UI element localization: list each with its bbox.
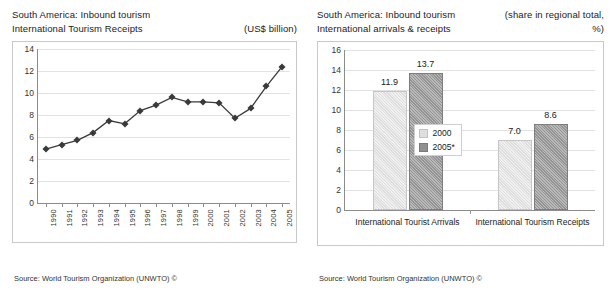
y-axis-tick-label: 6 [29, 132, 34, 142]
bar-chart-plot-area: 024681012141611.913.7International Touri… [344, 50, 595, 211]
x-axis-tick-label: 1993 [96, 209, 105, 227]
x-axis-tick-label: 1990 [49, 209, 58, 227]
bar-value-label: 8.6 [544, 110, 557, 120]
left-source-note: Source: World Tourism Organization (UNWT… [14, 274, 177, 283]
x-axis-tick [266, 203, 267, 207]
bar-chart-container: 024681012141611.913.7International Touri… [317, 41, 604, 246]
legend-swatch-icon [419, 129, 428, 138]
y-axis-tick-label: 6 [336, 145, 341, 155]
y-axis-tick-label: 14 [332, 65, 341, 75]
left-chart-panel: South America: Inbound tourism Internati… [0, 0, 307, 290]
y-axis-tick-label: 10 [332, 105, 341, 115]
x-axis-tick [125, 203, 126, 207]
y-axis-tick-label: 8 [29, 110, 34, 120]
right-title-line2: International arrivals & receipts [317, 22, 451, 36]
x-axis-tick [219, 203, 220, 207]
x-axis-tick [282, 203, 283, 207]
right-unit-note-line1: (share in regional total, [505, 8, 604, 22]
left-title-line1: South America: Inbound tourism [12, 8, 150, 22]
bar-value-label: 13.7 [417, 59, 435, 69]
x-axis-tick-label: 1994 [112, 209, 121, 227]
x-axis-tick [62, 203, 63, 207]
x-axis-tick [235, 203, 236, 207]
y-axis-tick-label: 10 [25, 88, 34, 98]
right-unit-note-line2: %) [592, 22, 604, 36]
bar-chart-legend: 20002005* [414, 124, 462, 156]
x-axis-tick [109, 203, 110, 207]
x-axis-tick [251, 203, 252, 207]
x-axis-tick-label: 2005 [285, 209, 294, 227]
x-axis-tick [156, 203, 157, 207]
legend-swatch-icon [419, 143, 428, 152]
bar-value-label: 11.9 [381, 77, 398, 87]
x-axis-tick-label: 1991 [65, 209, 74, 227]
tourism-receipts-line [38, 49, 290, 203]
legend-label: 2000 [433, 128, 452, 138]
right-chart-panel: South America: Inbound tourism (share in… [307, 0, 614, 290]
x-axis-tick-label: 1998 [175, 209, 184, 227]
x-axis-tick [140, 203, 141, 207]
bar-value-label: 7.0 [508, 126, 521, 136]
tourism-figure-page: South America: Inbound tourism Internati… [0, 0, 615, 290]
x-axis-tick-label: 2000 [206, 209, 215, 227]
x-axis-tick-label: 2004 [269, 209, 278, 227]
x-axis-tick [77, 203, 78, 207]
x-axis-tick-label: 2003 [254, 209, 263, 227]
legend-label: 2005* [433, 142, 455, 152]
legend-item[interactable]: 2005* [419, 142, 455, 152]
right-chart-header: South America: Inbound tourism (share in… [317, 8, 604, 36]
bar-2000 [373, 91, 407, 210]
y-axis-tick-label: 16 [332, 45, 341, 55]
left-unit-note: (US$ billion) [244, 22, 297, 36]
x-axis-tick-label: 1995 [128, 209, 137, 227]
gridline [345, 50, 595, 51]
bar-2005 [534, 124, 568, 210]
right-source-note: Source: World Tourism Organization (UNWT… [319, 274, 482, 283]
y-axis-tick-label: 14 [25, 44, 34, 54]
y-axis-tick-label: 2 [29, 176, 34, 186]
line-chart-container: 0246810121419901991199219931994199519961… [12, 41, 297, 243]
gridline [345, 70, 595, 71]
category-divider-tick [470, 210, 471, 214]
x-axis-tick [188, 203, 189, 207]
line-chart-plot-area: 0246810121419901991199219931994199519961… [37, 49, 290, 204]
left-chart-header: South America: Inbound tourism Internati… [12, 8, 297, 36]
y-axis-tick-label: 4 [29, 154, 34, 164]
category-label: International Tourism Receipts [475, 217, 589, 227]
y-axis-tick-label: 8 [336, 125, 341, 135]
x-axis-tick-label: 1992 [80, 209, 89, 227]
x-axis-tick-label: 2002 [238, 209, 247, 227]
y-axis-tick-label: 12 [332, 85, 341, 95]
x-axis-tick [46, 203, 47, 207]
x-axis-tick-label: 1999 [191, 209, 200, 227]
y-axis-tick-label: 2 [336, 185, 341, 195]
y-axis-tick-label: 12 [25, 66, 34, 76]
x-axis-tick-label: 2001 [222, 209, 231, 227]
x-axis-tick [203, 203, 204, 207]
left-title-line2: International Tourism Receipts [12, 22, 143, 36]
y-axis-tick-label: 4 [336, 165, 341, 175]
y-axis-tick-label: 0 [336, 205, 341, 215]
x-axis-tick-label: 1996 [143, 209, 152, 227]
y-axis-tick-label: 0 [29, 198, 34, 208]
legend-item[interactable]: 2000 [419, 128, 455, 138]
right-title-line1: South America: Inbound tourism [317, 8, 455, 22]
x-axis-tick-label: 1997 [159, 209, 168, 227]
x-axis-tick [93, 203, 94, 207]
category-label: International Tourist Arrivals [355, 217, 459, 227]
bar-2000 [498, 140, 532, 210]
x-axis-tick [172, 203, 173, 207]
